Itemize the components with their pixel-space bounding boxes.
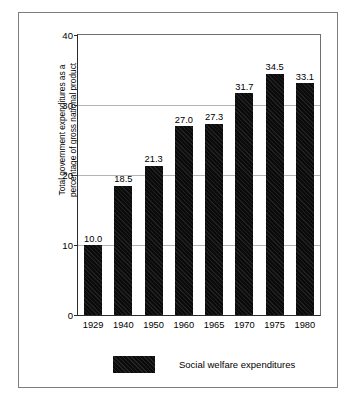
bar-1970[interactable]: 31.71970 bbox=[235, 93, 253, 315]
bar-value-label-1940: 18.5 bbox=[114, 174, 132, 184]
x-tick-label-1965: 1965 bbox=[204, 320, 225, 330]
y-tick-mark-0 bbox=[74, 315, 78, 316]
bar-1980[interactable]: 33.11980 bbox=[296, 83, 314, 315]
y-tick-label-10: 10 bbox=[62, 240, 73, 251]
y-tick-label-40: 40 bbox=[62, 30, 73, 41]
y-tick-label-20: 20 bbox=[62, 170, 73, 181]
y-tick-label-0: 0 bbox=[68, 310, 73, 321]
figure-frame: Total government expenditures as a perce… bbox=[18, 12, 338, 388]
bar-value-label-1980: 33.1 bbox=[296, 72, 314, 82]
gridline-30 bbox=[78, 105, 320, 106]
y-tick-mark-10 bbox=[74, 245, 78, 246]
bar-1960[interactable]: 27.01960 bbox=[175, 126, 193, 315]
bar-1975[interactable]: 34.51975 bbox=[266, 74, 284, 316]
bar-1929[interactable]: 10.01929 bbox=[84, 245, 102, 315]
x-tick-label-1975: 1975 bbox=[264, 320, 285, 330]
x-tick-label-1940: 1940 bbox=[113, 320, 134, 330]
bar-value-label-1965: 27.3 bbox=[205, 112, 223, 122]
bar-value-label-1950: 21.3 bbox=[145, 154, 163, 164]
y-tick-mark-30 bbox=[74, 105, 78, 106]
bar-value-label-1960: 27.0 bbox=[175, 115, 193, 125]
x-tick-label-1950: 1950 bbox=[143, 320, 164, 330]
bar-1965[interactable]: 27.31965 bbox=[205, 124, 223, 315]
x-tick-label-1980: 1980 bbox=[295, 320, 316, 330]
y-tick-mark-20 bbox=[74, 175, 78, 176]
bar-value-label-1929: 10.0 bbox=[84, 234, 102, 244]
x-tick-label-1929: 1929 bbox=[83, 320, 104, 330]
legend-label-social-welfare-expenditures: Social welfare expenditures bbox=[179, 359, 295, 370]
legend-swatch-social-welfare-expenditures bbox=[113, 356, 155, 373]
bar-value-label-1970: 31.7 bbox=[235, 82, 253, 92]
bar-value-label-1975: 34.5 bbox=[266, 62, 284, 72]
bar-1940[interactable]: 18.51940 bbox=[114, 186, 132, 316]
bar-1950[interactable]: 21.31950 bbox=[145, 166, 163, 315]
plot-area: 010203040 10.0192918.5194021.3195027.019… bbox=[77, 34, 321, 316]
y-tick-mark-40 bbox=[74, 35, 78, 36]
chart-legend: Social welfare expenditures bbox=[77, 353, 321, 375]
y-tick-label-30: 30 bbox=[62, 100, 73, 111]
x-tick-label-1970: 1970 bbox=[234, 320, 255, 330]
x-tick-label-1960: 1960 bbox=[174, 320, 195, 330]
